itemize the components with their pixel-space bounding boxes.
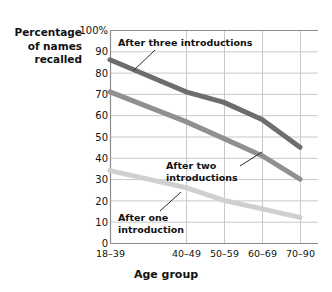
annotation-after-one-line-1: After one	[118, 212, 184, 224]
x-axis-title: Age group	[0, 268, 332, 281]
chart-figure: Percentage of names recalled 100% 90 80 …	[0, 0, 332, 292]
grid-horizontal	[110, 31, 318, 223]
annotation-after-two-line-2: introductions	[166, 172, 238, 184]
annotation-after-two-line-1: After two	[166, 160, 238, 172]
annotation-after-three-line-1: After three introductions	[118, 37, 252, 49]
leader-line-after-two	[240, 152, 262, 166]
annotation-after-one-introduction: After one introduction	[118, 212, 184, 235]
x-tick-label-18-39: 18–39	[88, 249, 133, 259]
annotation-after-two-introductions: After two introductions	[166, 160, 238, 183]
x-tick-label-70-90: 70–90	[278, 249, 323, 259]
leader-line-after-three	[133, 50, 155, 71]
annotation-after-one-line-2: introduction	[118, 224, 184, 236]
leader-line-after-one	[160, 192, 181, 211]
annotation-after-three-introductions: After three introductions	[118, 37, 252, 49]
